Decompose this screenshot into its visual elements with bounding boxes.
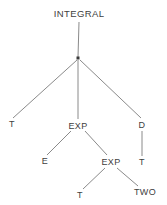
parse-tree-figure: INTEGRALTEXPDEEXPTTTWO <box>0 0 167 205</box>
tree-node-label: EXP <box>102 157 121 167</box>
edge-group <box>13 22 142 189</box>
tree-edge <box>83 168 105 189</box>
tree-node-label: T <box>77 190 83 200</box>
tree-node-label: T <box>9 119 15 129</box>
tree-node-label: INTEGRAL <box>54 9 105 19</box>
tree-node-label: T <box>139 157 145 167</box>
tree-edges-layer <box>0 0 167 205</box>
tree-node-label: EXP <box>69 121 88 131</box>
tree-edge <box>85 131 107 155</box>
tree-node-label: TWO <box>134 187 156 197</box>
tree-node-label: D <box>139 120 146 130</box>
tree-edge <box>13 60 77 118</box>
tree-node-label: E <box>42 156 48 166</box>
tree-edge <box>78 22 79 57</box>
tree-edge <box>47 131 71 155</box>
tree-edge <box>80 60 141 118</box>
tree-node-junction <box>77 57 80 60</box>
tree-edge <box>117 168 138 186</box>
